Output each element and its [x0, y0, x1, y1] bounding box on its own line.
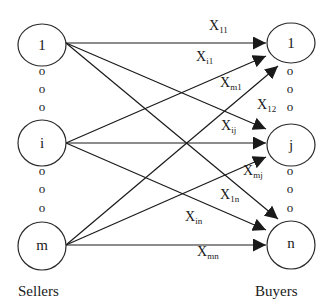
edge-label-xi1: Xi1: [196, 49, 213, 66]
edge-label-xin: Xin: [185, 209, 203, 226]
sellers-label: Sellers: [18, 283, 59, 299]
seller-node-i-label: i: [40, 135, 44, 151]
buyer-node-j-label: j: [288, 137, 293, 153]
buyer-node-n: n: [267, 221, 315, 269]
seller-buyer-network-diagram: 1 i m o o o o o o 1 j n o o o o o o X11 …: [0, 0, 331, 307]
ellipsis-dot: o: [287, 81, 294, 96]
ellipsis-dot: o: [39, 81, 46, 96]
seller-node-m-label: m: [36, 237, 48, 253]
seller-node-i: i: [18, 120, 66, 166]
ellipsis-dot: o: [39, 181, 46, 196]
ellipsis-dot: o: [287, 63, 294, 78]
buyer-node-1: 1: [267, 23, 315, 63]
buyer-node-1-label: 1: [287, 35, 295, 51]
seller-node-1-label: 1: [38, 37, 46, 53]
ellipsis-dot: o: [39, 99, 46, 114]
edge-label-x1n: X1n: [220, 187, 240, 204]
edge-label-xmj: Xmj: [243, 163, 263, 180]
ellipsis-dot: o: [287, 181, 294, 196]
edge-si-bn: [66, 143, 266, 230]
edge-s1-bn: [66, 43, 278, 219]
edge-label-x11: X11: [209, 18, 228, 35]
edge-sm-b1: [66, 66, 278, 245]
edge-label-xm1: Xm1: [220, 75, 242, 92]
edge-label-xmn: Xmn: [197, 244, 219, 261]
ellipsis-dot: o: [287, 200, 294, 215]
ellipsis-dot: o: [287, 163, 294, 178]
ellipsis-dot: o: [39, 163, 46, 178]
ellipsis-dot: o: [287, 99, 294, 114]
ellipsis-dot: o: [39, 200, 46, 215]
seller-node-m: m: [18, 222, 66, 270]
buyer-node-n-label: n: [287, 235, 295, 251]
edge-label-x12: X12: [257, 97, 276, 114]
edge-label-xij: Xij: [221, 118, 236, 135]
buyers-label: Buyers: [255, 283, 298, 299]
ellipsis-dot: o: [39, 63, 46, 78]
buyer-node-j: j: [267, 124, 315, 166]
seller-node-1: 1: [18, 24, 66, 66]
